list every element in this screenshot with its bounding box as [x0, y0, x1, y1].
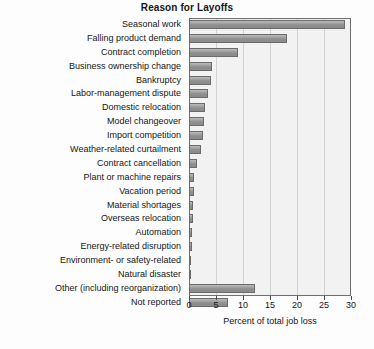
category-axis-labels: Seasonal workFalling product demandContr… [0, 18, 185, 296]
bar-row [189, 60, 351, 74]
bar-series [189, 18, 351, 296]
category-label: Import competition [0, 129, 185, 143]
bar [189, 76, 211, 85]
bar-row [189, 32, 351, 46]
category-label: Not reported [0, 296, 185, 310]
category-label: Weather-related curtailment [0, 143, 185, 157]
bar-row [189, 18, 351, 32]
bar-row [189, 143, 351, 157]
bar [189, 270, 191, 279]
category-label: Environment- or safety-related [0, 254, 185, 268]
chart-title: Reason for Layoffs [0, 2, 374, 13]
bar-row [189, 171, 351, 185]
bar-row [189, 129, 351, 143]
category-label: Contract cancellation [0, 157, 185, 171]
bar [189, 242, 192, 251]
bar-row [189, 74, 351, 88]
layoffs-bar-chart: Reason for Layoffs Seasonal workFalling … [0, 0, 374, 349]
bar [189, 187, 194, 196]
category-label: Natural disaster [0, 268, 185, 282]
category-label: Vacation period [0, 185, 185, 199]
bar [189, 20, 345, 29]
bar-row [189, 185, 351, 199]
axis-tick-label: 10 [231, 300, 255, 310]
category-label: Other (including reorganization) [0, 282, 185, 296]
category-label: Energy-related disruption [0, 240, 185, 254]
category-label: Contract completion [0, 46, 185, 60]
bar [189, 89, 208, 98]
x-axis-title: Percent of total job loss [189, 316, 351, 326]
bar [189, 214, 193, 223]
bar [189, 62, 212, 71]
bar [189, 131, 203, 140]
axis-tick-label: 25 [312, 300, 336, 310]
bar [189, 117, 204, 126]
category-label: Domestic relocation [0, 101, 185, 115]
bar [189, 103, 205, 112]
category-label: Falling product demand [0, 32, 185, 46]
bar-row [189, 157, 351, 171]
bar [189, 34, 287, 43]
category-label: Automation [0, 226, 185, 240]
bar-row [189, 101, 351, 115]
bar-row [189, 226, 351, 240]
category-label: Model changeover [0, 115, 185, 129]
axis-tick-label: 0 [177, 300, 201, 310]
bar [189, 256, 191, 265]
category-label: Material shortages [0, 199, 185, 213]
bar [189, 159, 197, 168]
bar-row [189, 87, 351, 101]
axis-tick-label: 15 [258, 300, 282, 310]
bar [189, 228, 192, 237]
bar-row [189, 268, 351, 282]
category-label: Bankruptcy [0, 74, 185, 88]
bar [189, 173, 194, 182]
category-label: Business ownership change [0, 60, 185, 74]
category-label: Labor-management dispute [0, 87, 185, 101]
bar-row [189, 212, 351, 226]
category-label: Seasonal work [0, 18, 185, 32]
axis-tick-label: 5 [204, 300, 228, 310]
bar-row [189, 282, 351, 296]
bar-row [189, 254, 351, 268]
category-label: Overseas relocation [0, 212, 185, 226]
axis-tick-label: 20 [285, 300, 309, 310]
bar-row [189, 240, 351, 254]
bar [189, 284, 255, 293]
axis-tick-label: 30 [339, 300, 363, 310]
bar [189, 48, 238, 57]
bar-row [189, 46, 351, 60]
bar [189, 201, 193, 210]
bar-row [189, 115, 351, 129]
category-label: Plant or machine repairs [0, 171, 185, 185]
bar [189, 145, 201, 154]
bar-row [189, 199, 351, 213]
